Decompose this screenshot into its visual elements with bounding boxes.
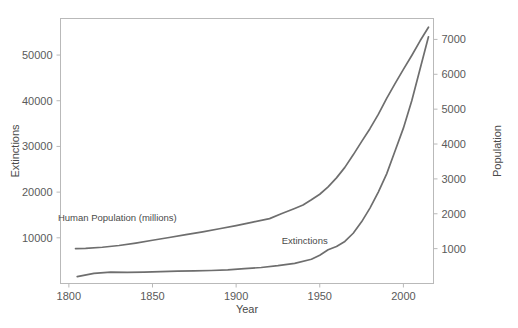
x-tick-label: 1800: [57, 290, 81, 302]
y-left-tick-label: 30000: [22, 140, 53, 152]
y-left-tick-label: 10000: [22, 232, 53, 244]
x-axis-title: Year: [236, 303, 259, 315]
chart-figure: 18001850190019502000 1000020000300004000…: [0, 0, 518, 328]
chart-background: [0, 0, 518, 328]
y-right-tick-label: 1000: [442, 243, 466, 255]
y-axis-right-title: Population: [491, 125, 503, 177]
y-left-tick-label: 20000: [22, 186, 53, 198]
series-annotation-extinctions: Extinctions: [282, 235, 328, 246]
y-axis-left-title: Extinctions: [9, 124, 21, 178]
y-right-tick-label: 5000: [442, 103, 466, 115]
y-left-tick-label: 40000: [22, 95, 53, 107]
y-right-tick-label: 7000: [442, 33, 466, 45]
y-right-tick-label: 3000: [442, 173, 466, 185]
extinctions-population-line-chart: 18001850190019502000 1000020000300004000…: [0, 0, 518, 328]
x-tick-label: 2000: [391, 290, 415, 302]
y-right-tick-label: 2000: [442, 208, 466, 220]
y-right-tick-label: 4000: [442, 138, 466, 150]
x-tick-label: 1850: [140, 290, 164, 302]
x-tick-label: 1950: [308, 290, 332, 302]
y-left-tick-label: 50000: [22, 49, 53, 61]
y-right-tick-label: 6000: [442, 68, 466, 80]
x-tick-label: 1900: [224, 290, 248, 302]
series-annotation-human-population-millions: Human Population (millions): [58, 212, 177, 223]
